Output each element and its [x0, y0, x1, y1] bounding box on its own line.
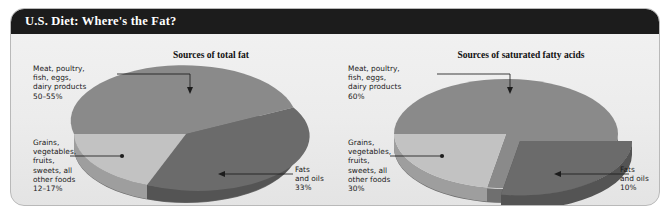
callout-saturated-fat-fats: Fats and oils 10% — [620, 165, 660, 193]
callout-total-fat-fats: Fats and oils 33% — [295, 165, 343, 193]
callout-total-fat-meat: Meat, poultry, fish, eggs, dairy product… — [33, 64, 117, 101]
figure-titlebar: U.S. Diet: Where's the Fat? — [11, 9, 659, 34]
callout-saturated-fat-meat: Meat, poultry, fish, eggs, dairy product… — [348, 64, 432, 101]
leader-dot-grains-r — [440, 154, 444, 158]
figure-root: U.S. Diet: Where's the Fat? Sources of t… — [0, 0, 670, 218]
charts-panel: Sources of total fat Sources of saturate… — [11, 34, 659, 206]
leader-dot-grains — [120, 154, 124, 158]
callout-saturated-fat-grains: Grains, vegetables, fruits, sweets, all … — [348, 138, 418, 193]
figure-card: U.S. Diet: Where's the Fat? Sources of t… — [10, 8, 660, 206]
pie-right-slice-fats — [501, 141, 632, 195]
callout-total-fat-grains: Grains, vegetables, fruits, sweets, all … — [33, 138, 103, 193]
pie-right-exploded-group — [501, 141, 632, 206]
figure-title: U.S. Diet: Where's the Fat? — [25, 14, 176, 29]
